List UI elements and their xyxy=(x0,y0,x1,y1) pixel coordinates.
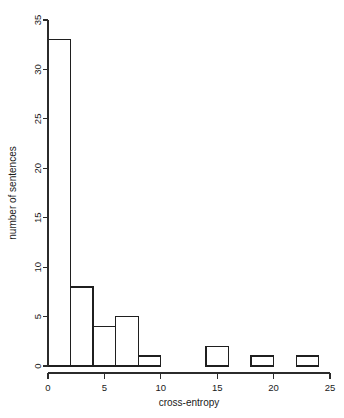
x-ticks-group: 0510152025 xyxy=(45,373,335,393)
y-tick-label: 10 xyxy=(32,262,43,273)
histogram-canvas: 05101520253035 number of sentences 05101… xyxy=(0,0,344,418)
x-axis-title: cross-entropy xyxy=(159,397,220,408)
x-tick-label: 10 xyxy=(156,382,167,393)
plot-area xyxy=(48,40,319,366)
x-axis: 0510152025 cross-entropy xyxy=(45,373,335,408)
histogram-bar xyxy=(296,356,319,366)
y-tick-label: 0 xyxy=(32,363,43,368)
bars-group xyxy=(48,40,319,366)
y-tick-label: 20 xyxy=(32,163,43,174)
y-tick-label: 5 xyxy=(32,314,43,319)
histogram-bar xyxy=(206,346,229,366)
x-tick-label: 15 xyxy=(212,382,223,393)
x-tick-label: 0 xyxy=(45,382,50,393)
x-tick-label: 25 xyxy=(325,382,336,393)
y-tick-label: 30 xyxy=(32,64,43,75)
y-ticks-group: 05101520253035 xyxy=(32,15,48,369)
histogram-bar xyxy=(251,356,274,366)
histogram-bar xyxy=(48,40,71,366)
y-tick-label: 15 xyxy=(32,212,43,223)
y-axis-title: number of sentences xyxy=(7,146,18,239)
histogram-bar xyxy=(116,317,139,366)
histogram-bar xyxy=(138,356,161,366)
histogram-bar xyxy=(93,326,116,366)
histogram-bar xyxy=(71,287,94,366)
y-tick-label: 35 xyxy=(32,15,43,26)
y-tick-label: 25 xyxy=(32,114,43,125)
histogram-plot: 05101520253035 number of sentences 05101… xyxy=(0,0,344,418)
y-axis: 05101520253035 number of sentences xyxy=(7,15,48,369)
x-tick-label: 20 xyxy=(268,382,279,393)
x-tick-label: 5 xyxy=(102,382,107,393)
